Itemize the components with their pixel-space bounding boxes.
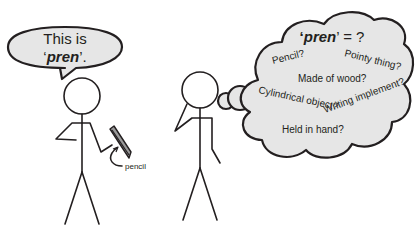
speech-line-1: This is [43,30,86,47]
speech-bubble: This is ‘pren’. [8,27,122,79]
thinker-head [182,72,218,108]
speaker-left-leg [65,172,82,224]
illustration: This is ‘pren’. pencil ‘pren’ = ? Pencil… [0,0,418,232]
speech-line-2: ‘pren’. [43,48,86,65]
thought-bubble: ‘pren’ = ? Pencil? Pointy thing? Made of… [218,12,413,158]
pencil-icon [110,126,131,158]
thinker-figure [175,72,220,220]
thought-guess: Made of wood? [298,73,367,84]
speaker-right-leg [82,172,99,224]
thinker-left-leg [183,168,200,220]
thinker-right-leg [200,168,217,220]
thinker-right-arm [200,118,220,163]
pencil-label: pencil [125,162,146,171]
speaker-figure [56,78,112,224]
thought-title: ‘pren’ = ? [300,28,365,45]
speaker-left-arm [56,123,82,140]
speaker-right-arm [82,123,112,152]
thought-guess: Held in hand? [282,124,344,135]
speaker-head [64,78,100,114]
